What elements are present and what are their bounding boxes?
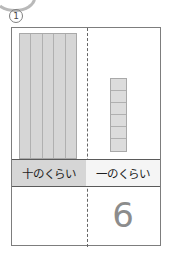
tens-rod-block — [19, 33, 77, 159]
ones-unit-cube — [111, 115, 126, 127]
ones-answer-cell[interactable]: 6 — [86, 188, 160, 245]
tens-place-label: 十のくらい — [12, 160, 86, 186]
tens-strip — [31, 34, 42, 158]
ones-unit-column — [110, 78, 127, 152]
base-ten-blocks-area — [12, 28, 160, 159]
tens-strip — [54, 34, 65, 158]
ones-unit-cube — [111, 103, 126, 115]
ones-unit-cube — [111, 139, 126, 151]
place-value-worksheet: 十のくらい 一のくらい 6 — [11, 27, 161, 246]
tens-strip — [20, 34, 31, 158]
tens-answer-cell[interactable] — [12, 188, 86, 245]
ones-answer-digit: 6 — [112, 198, 134, 236]
ones-unit-cube — [111, 79, 126, 91]
place-label-row: 十のくらい 一のくらい — [12, 159, 160, 187]
ones-place-label: 一のくらい — [86, 160, 160, 186]
tens-strip — [66, 34, 76, 158]
tens-strip — [43, 34, 54, 158]
answer-row: 6 — [12, 188, 160, 245]
ones-unit-cube — [111, 91, 126, 103]
problem-number-badge: 1 — [9, 9, 23, 23]
ones-unit-cube — [111, 127, 126, 139]
